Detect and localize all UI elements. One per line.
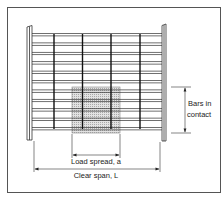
clear-span-label: Clear span, L	[74, 171, 119, 180]
left-support	[27, 26, 32, 141]
right-support	[162, 24, 166, 141]
load-area	[72, 87, 120, 133]
load-spread-label: Load spread, a	[71, 157, 122, 166]
diagram-canvas: Bars in contact Load spread, a Clear spa…	[0, 0, 224, 201]
bars-in-contact-label-1: Bars in	[188, 99, 211, 108]
load-spread-dimension	[72, 134, 120, 158]
bars-in-contact-label-2: contact	[187, 110, 212, 119]
